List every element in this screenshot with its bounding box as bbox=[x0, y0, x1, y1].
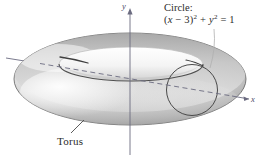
eq-var-x: x bbox=[168, 14, 173, 25]
x-axis-dashed-interior bbox=[40, 64, 232, 97]
torus-figure: Circle: (x − 3)2 + y2 = 1 Torus y x bbox=[0, 0, 260, 161]
eq-exponent-first: 2 bbox=[194, 13, 198, 21]
x-axis-label: x bbox=[251, 94, 255, 104]
y-axis-label: y bbox=[122, 1, 126, 11]
eq-plus: + bbox=[200, 14, 206, 25]
eq-equals: = bbox=[220, 14, 226, 25]
circle-annotation-title: Circle: bbox=[164, 2, 235, 14]
x-axis-arrowhead bbox=[244, 97, 250, 101]
circle-equation: (x − 3)2 + y2 = 1 bbox=[164, 14, 235, 26]
eq-radius-value: 1 bbox=[229, 14, 234, 25]
eq-exponent-second: 2 bbox=[214, 13, 218, 21]
circle-annotation: Circle: (x − 3)2 + y2 = 1 bbox=[164, 2, 235, 27]
torus-annotation-label: Torus bbox=[57, 135, 83, 148]
y-axis-arrowhead bbox=[127, 8, 132, 15]
eq-minus: − bbox=[175, 14, 181, 25]
circle-label-leader-line bbox=[210, 29, 215, 68]
generating-circle bbox=[167, 65, 218, 116]
torus-label-leader-line bbox=[71, 120, 84, 133]
